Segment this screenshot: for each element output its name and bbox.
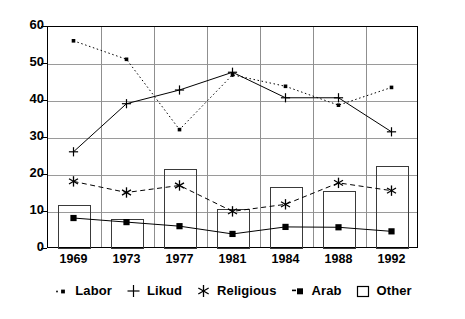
data-point-marker xyxy=(228,68,237,77)
plus-marker xyxy=(125,284,142,298)
x-tick-label: 1969 xyxy=(44,252,104,266)
legend-item-arab[interactable]: Arab xyxy=(290,283,342,298)
y-tick-label: 60 xyxy=(18,20,44,30)
data-point-marker xyxy=(387,127,396,136)
data-point-marker xyxy=(334,178,343,188)
x-tick-label: 1984 xyxy=(256,252,316,266)
data-point-marker xyxy=(123,219,129,225)
data-point-marker xyxy=(229,231,235,237)
series-line xyxy=(74,41,392,130)
data-point-marker xyxy=(284,85,288,89)
data-point-marker xyxy=(388,228,394,234)
y-tick-mark xyxy=(41,248,47,249)
y-tick-label: 30 xyxy=(18,131,44,141)
data-point-marker xyxy=(61,289,65,293)
data-point-marker xyxy=(198,285,208,297)
open-rect-marker xyxy=(355,284,372,298)
asterisk-marker xyxy=(195,284,212,298)
y-tick-label: 20 xyxy=(18,168,44,178)
x-tick-label: 1977 xyxy=(150,252,210,266)
legend-item-likud[interactable]: Likud xyxy=(125,283,182,298)
y-tick-label: 40 xyxy=(18,94,44,104)
data-point-marker xyxy=(72,39,76,43)
data-point-marker xyxy=(69,176,78,186)
data-point-marker xyxy=(281,93,290,102)
filled-square-marker xyxy=(290,284,307,298)
legend-item-other[interactable]: Other xyxy=(355,283,412,298)
dotted-square-marker xyxy=(53,284,70,298)
legend-item-religious[interactable]: Religious xyxy=(195,283,276,298)
x-tick-label: 1981 xyxy=(203,252,263,266)
legend-label: Labor xyxy=(75,283,112,298)
data-point-marker xyxy=(297,288,303,294)
legend-label: Likud xyxy=(147,283,182,298)
series-overlay xyxy=(47,26,418,248)
legend-item-labor[interactable]: Labor xyxy=(53,283,112,298)
data-point-marker xyxy=(282,224,288,230)
x-tick-label: 1973 xyxy=(97,252,157,266)
x-tick-label: 1988 xyxy=(309,252,369,266)
data-point-marker xyxy=(337,103,341,107)
legend-label: Religious xyxy=(217,283,276,298)
chart-legend: LaborLikudReligiousArabOther xyxy=(0,283,465,298)
series-line xyxy=(74,72,392,152)
chart-root: 0102030405060 19691973197719811984198819… xyxy=(0,0,465,319)
x-tick-label: 1992 xyxy=(362,252,422,266)
data-point-marker xyxy=(390,86,394,90)
legend-label: Arab xyxy=(312,283,342,298)
legend-label: Other xyxy=(377,283,412,298)
data-point-marker xyxy=(127,285,139,297)
data-point-marker xyxy=(70,215,76,221)
data-point-marker xyxy=(334,93,343,102)
data-point-marker xyxy=(228,206,237,216)
data-point-marker xyxy=(178,128,182,132)
y-tick-label: 0 xyxy=(18,242,44,252)
data-point-marker xyxy=(176,223,182,229)
data-point-marker xyxy=(125,58,129,62)
data-point-marker xyxy=(122,187,131,197)
y-tick-label: 10 xyxy=(18,205,44,215)
data-point-marker xyxy=(175,85,184,94)
y-tick-label: 50 xyxy=(18,57,44,67)
data-point-marker xyxy=(335,224,341,230)
